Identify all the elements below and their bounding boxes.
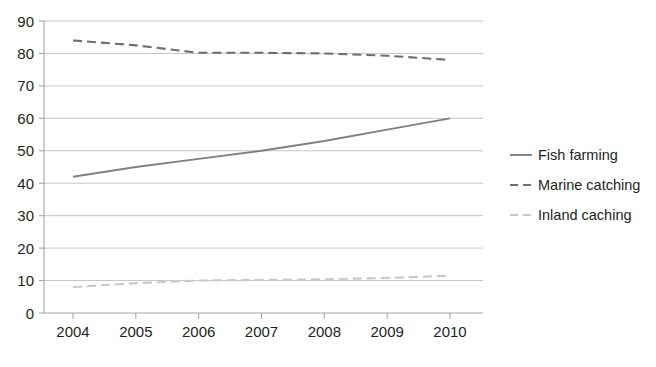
x-tick-label-2009: 2009	[370, 323, 403, 340]
legend-label-fish-farming: Fish farming	[538, 147, 618, 163]
x-tick-label-2004: 2004	[56, 323, 89, 340]
y-tick-label-60: 60	[17, 110, 34, 127]
fisheries-production-line-chart: 0102030405060708090 20042005200620072008…	[0, 0, 656, 367]
y-tick-label-50: 50	[17, 142, 34, 159]
y-tick-label-90: 90	[17, 13, 34, 30]
y-tick-label-70: 70	[17, 77, 34, 94]
chart-canvas: 0102030405060708090 20042005200620072008…	[0, 0, 656, 367]
y-tick-label-40: 40	[17, 175, 34, 192]
x-tick-label-2007: 2007	[245, 323, 278, 340]
y-tick-label-20: 20	[17, 240, 34, 257]
y-tick-label-0: 0	[26, 305, 34, 322]
x-tick-label-2010: 2010	[433, 323, 466, 340]
legend-label-marine-catching: Marine catching	[538, 177, 640, 193]
y-tick-label-80: 80	[17, 45, 34, 62]
x-tick-label-2006: 2006	[182, 323, 215, 340]
x-tick-label-2005: 2005	[119, 323, 152, 340]
legend-label-inland-caching: Inland caching	[538, 207, 632, 223]
y-tick-label-30: 30	[17, 207, 34, 224]
x-tick-label-2008: 2008	[308, 323, 341, 340]
y-tick-label-10: 10	[17, 272, 34, 289]
